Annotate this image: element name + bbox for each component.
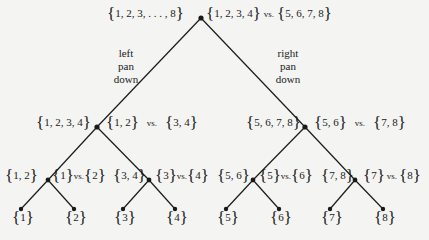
l2-left-test-label: {1, 2}vs.{3, 4} [106,116,198,129]
left-pan-down-label: left pan down [108,47,144,86]
l3-test-label-2: {3}vs.{4} [155,169,209,182]
l2-right-set-label: {5, 6, 7, 8} [246,116,301,129]
leaf-2: {2} [65,211,87,224]
leaf-7: {7} [321,211,343,224]
l2-right-test-label: {5, 6}vs.{7, 8} [314,116,406,129]
l2-left-set-label: {1, 2, 3, 4} [36,116,91,129]
root-node [198,15,203,20]
l3-test-label-4: {7}vs.{8} [363,169,421,182]
leaf-1: {1} [12,211,34,224]
l3-set-label-3: {5, 6} [217,169,250,182]
leaf-5: {5} [217,211,239,224]
l3-set-label-4: {7, 8} [321,169,354,182]
decision-tree-diagram: {1, 2, 3, . . . , 8} {1, 2, 3, 4}vs.{5, … [0,0,429,240]
leaf-3: {3} [114,211,136,224]
leaf-6: {6} [270,211,292,224]
l3-test-label-3: {5}vs.{6} [259,169,313,182]
right-pan-down-label: right pan down [268,47,308,86]
node-l2-right [302,124,307,129]
l3-set-label-2: {3, 4} [113,169,146,182]
node-l2-left [94,124,99,129]
leaf-4: {4} [166,211,188,224]
root-test-label: {1, 2, 3, 4}vs.{5, 6, 7, 8} [206,7,332,20]
l3-set-label-1: {1, 2} [5,169,38,182]
root-set-label: {1, 2, 3, . . . , 8} [107,7,184,20]
l3-test-label-1: {1}vs.{2} [52,169,106,182]
leaf-8: {8} [374,211,396,224]
